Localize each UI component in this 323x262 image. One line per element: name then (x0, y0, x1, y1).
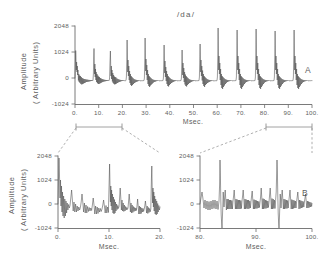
panel-a-xtick-40: 40. (165, 109, 175, 116)
panel-b-right-ytick-1024: 1024 (179, 176, 194, 183)
panel-a: 2048 1024 0 -1024 0. 10. 20. 30. (19, 22, 319, 125)
panel-a-y-axis-label-line2: ( Arbitrary Units) (31, 42, 40, 104)
panel-b-left: 2048 1024 0 -1024 0. 10. 20. Msec. Ampli… (7, 152, 165, 250)
figure-title: /da/ (177, 10, 195, 19)
left-connector-dash-end (122, 128, 160, 153)
figure-canvas: /da/ 2048 1024 0 -1024 (0, 0, 323, 262)
speech-waveform-figure: /da/ 2048 1024 0 -1024 (0, 0, 323, 262)
panel-b-left-xtick-10: 10. (104, 233, 114, 240)
panel-a-x-axis-label: Msec. (183, 118, 204, 125)
panel-a-ytick-2048: 2048 (54, 22, 69, 29)
panel-b-left-y-ticks (55, 156, 59, 228)
panel-a-y-ticks (72, 26, 76, 104)
panel-a-ytick-0: 0 (65, 74, 69, 81)
panel-b-left-x-ticks (58, 229, 160, 233)
panel-a-xtick-100: 100. (305, 109, 318, 116)
panel-a-ytick-1024: 1024 (54, 48, 69, 55)
panel-a-xtick-70: 70. (236, 109, 246, 116)
panel-b-right-xtick-90: 90. (251, 233, 261, 240)
panel-b-left-xtick-20: 20. (155, 233, 165, 240)
panel-a-xtick-10: 10. (94, 109, 104, 116)
panel-a-xtick-50: 50. (189, 109, 199, 116)
panel-a-xtick-60: 60. (212, 109, 222, 116)
panel-b-left-y-axis-label-line1: Amplitude (7, 177, 16, 214)
panel-a-xtick-80: 80. (260, 109, 270, 116)
panel-a-letter: A (305, 65, 311, 75)
panel-a-xtick-30: 30. (141, 109, 151, 116)
panel-b-left-ytick-neg1024: -1024 (35, 224, 53, 231)
panel-b-right-ytick-neg1024: -1024 (177, 224, 195, 231)
expansion-connectors (58, 124, 312, 154)
panel-b-left-y-axis-label-line2: ( Arbitrary Units) (19, 169, 28, 231)
panel-b-left-xtick-0: 0. (55, 233, 61, 240)
waveform-a-trace (75, 28, 312, 89)
panel-b-right-xtick-100: 100. (305, 233, 318, 240)
panel-a-xtick-20: 20. (118, 109, 128, 116)
panel-b-left-ytick-2048: 2048 (37, 152, 52, 159)
panel-b-right-xtick-80: 80. (195, 233, 205, 240)
panel-b-right-x-axis-label: Msec. (246, 243, 267, 250)
panel-b-left-ytick-0: 0 (48, 200, 52, 207)
panel-b-right-x-ticks (200, 229, 312, 233)
panel-b-left-x-axis-label: Msec. (99, 243, 120, 250)
left-connector-dash-start (58, 128, 76, 153)
panel-a-ytick-neg1024: -1024 (52, 100, 70, 107)
panel-a-xtick-0: 0. (72, 109, 78, 116)
waveform-b-left-trace (58, 158, 160, 218)
panel-a-y-axis-label-line1: Amplitude (19, 53, 28, 90)
waveform-b-right-trace (200, 160, 312, 228)
panel-a-xtick-90: 90. (284, 109, 294, 116)
panel-b-right-ytick-2048: 2048 (179, 152, 194, 159)
panel-b-left-ytick-1024: 1024 (37, 176, 52, 183)
panel-a-x-ticks (75, 105, 312, 109)
right-connector-dash-start (200, 128, 266, 153)
panel-b-right-ytick-0: 0 (190, 200, 194, 207)
panel-b-right-y-ticks (197, 156, 201, 228)
panel-b-right: 2048 1024 0 -1024 80. 90. 100. Msec. B (177, 152, 319, 250)
